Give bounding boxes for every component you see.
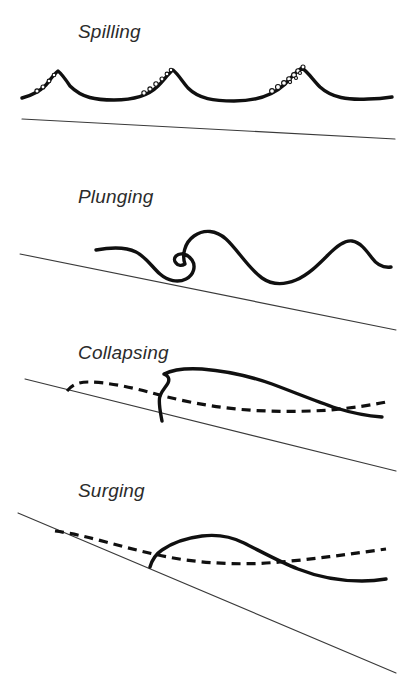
- foam-bubble: [165, 72, 169, 76]
- foam-bubble: [148, 87, 152, 91]
- panel-label-plunging: Plunging: [78, 186, 154, 207]
- figure-background: [0, 0, 411, 699]
- panel-label-collapsing: Collapsing: [78, 342, 169, 363]
- foam-bubble: [35, 89, 39, 93]
- breaking-wave-types-figure: Spilling Plunging: [0, 0, 411, 699]
- foam-bubble: [160, 77, 164, 81]
- foam-bubble: [41, 85, 45, 89]
- foam-bubble: [301, 65, 305, 69]
- foam-bubble: [47, 79, 51, 83]
- foam-bubble: [282, 81, 287, 86]
- foam-bubble: [52, 73, 56, 77]
- foam-bubble: [295, 77, 298, 80]
- foam-bubble: [169, 68, 173, 72]
- panel-label-surging: Surging: [78, 480, 145, 501]
- foam-bubble: [270, 89, 275, 94]
- foam-bubble: [154, 82, 158, 86]
- foam-bubble: [288, 80, 291, 83]
- foam-bubble: [276, 85, 281, 90]
- foam-bubble: [299, 72, 302, 75]
- panel-label-spilling: Spilling: [78, 21, 141, 42]
- foam-bubble: [142, 91, 146, 95]
